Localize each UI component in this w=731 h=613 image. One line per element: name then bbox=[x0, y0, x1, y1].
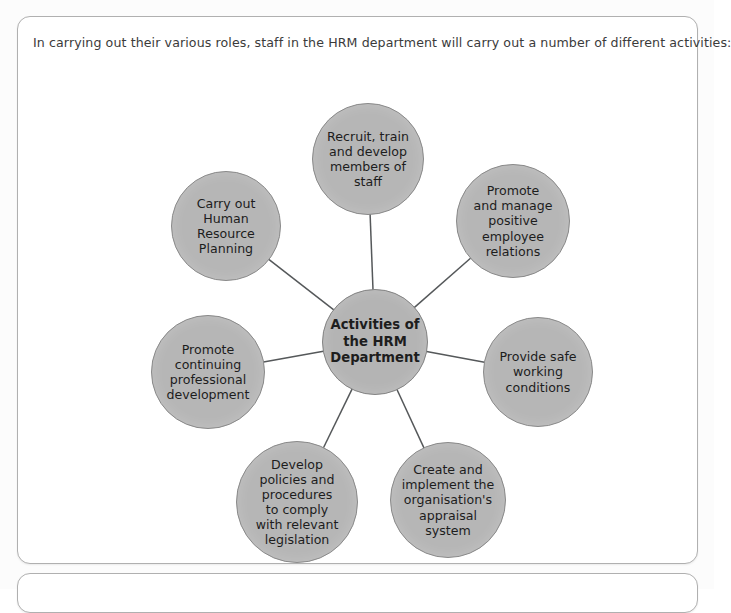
diagram-node-label: Develop policies and procedures to compl… bbox=[250, 457, 345, 548]
connector-develop-policies bbox=[323, 388, 353, 449]
hrm-activities-panel: In carrying out their various roles, sta… bbox=[17, 16, 698, 564]
secondary-panel bbox=[17, 573, 698, 613]
diagram-node-label: Promote and manage positive employee rel… bbox=[457, 183, 569, 259]
diagram-node-appraisal-system: Create and implement the organisation's … bbox=[390, 442, 506, 558]
diagram-node-label: Recruit, train and develop members of st… bbox=[321, 129, 415, 189]
connector-provide-safe-conditions bbox=[425, 351, 486, 362]
connector-promote-cpd bbox=[262, 351, 325, 362]
connector-recruit-train-develop bbox=[370, 213, 373, 291]
diagram-node-label: Create and implement the organisation's … bbox=[391, 462, 505, 538]
connector-promote-manage-relations bbox=[413, 257, 471, 308]
diagram-node-label: Activities of the HRM Department bbox=[324, 317, 425, 367]
diagram-node-human-resource-planning: Carry out Human Resource Planning bbox=[171, 171, 281, 281]
diagram-node-label: Promote continuing professional developm… bbox=[160, 342, 255, 402]
connector-human-resource-planning bbox=[268, 259, 335, 311]
diagram-node-promote-manage-relations: Promote and manage positive employee rel… bbox=[456, 164, 570, 278]
diagram-node-center: Activities of the HRM Department bbox=[322, 289, 428, 395]
diagram-node-develop-policies: Develop policies and procedures to compl… bbox=[236, 441, 358, 563]
diagram-node-label: Provide safe working conditions bbox=[493, 349, 582, 394]
diagram-node-recruit-train-develop: Recruit, train and develop members of st… bbox=[312, 103, 424, 215]
diagram-node-promote-cpd: Promote continuing professional developm… bbox=[151, 315, 265, 429]
diagram-node-label: Carry out Human Resource Planning bbox=[191, 196, 262, 256]
hrm-activities-diagram: Recruit, train and develop members of st… bbox=[18, 17, 699, 565]
connector-appraisal-system bbox=[396, 388, 424, 449]
diagram-node-provide-safe-conditions: Provide safe working conditions bbox=[483, 317, 593, 427]
